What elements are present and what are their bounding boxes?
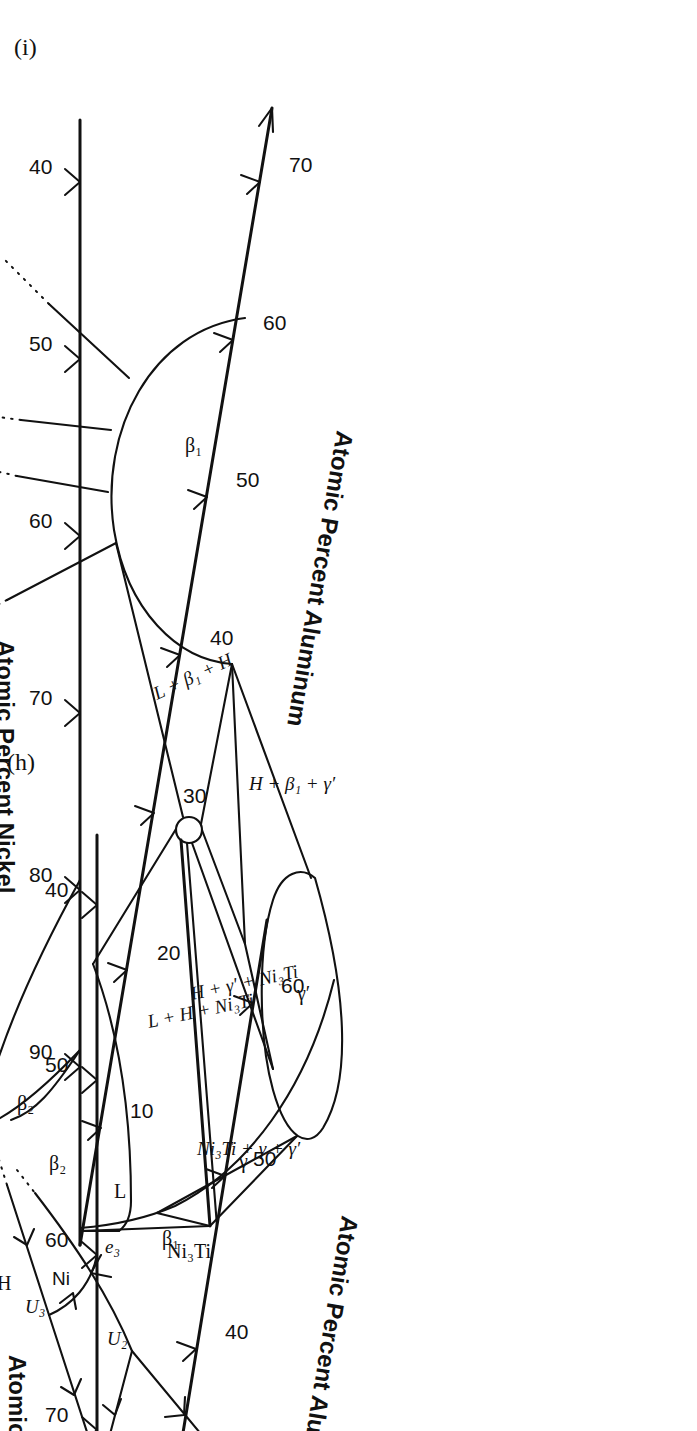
- ni-tick-70-h: 70: [45, 1403, 68, 1426]
- ni-tick-60: 60: [29, 509, 52, 532]
- line-U2-P3: [132, 1351, 235, 1431]
- al-tick-40-h: 40: [225, 1320, 248, 1343]
- panel-h: 60 50 40 30 20 10 40 50 60 70 80 90 Atom…: [0, 715, 697, 1431]
- al-tick-70: 70: [289, 153, 312, 176]
- al-axis-line-h: [97, 920, 267, 1431]
- point-label-U2: U₂: [107, 1328, 128, 1349]
- ni-axis-title-h: Atomic Percent Nickel: [4, 1355, 31, 1431]
- panel-h-svg: 60 50 40 30 20 10 40 50 60 70 80 90 Atom…: [0, 715, 697, 1431]
- al-tick-40: 40: [210, 626, 233, 649]
- al-ticks-h: [92, 996, 253, 1431]
- al-axis-title-h: Atomic Percent Aluminum: [289, 1214, 364, 1431]
- al-tick-60-h: 60: [281, 974, 304, 997]
- arrow-U2P3: [165, 1397, 185, 1417]
- figure-page: 70 60 50 40 30 20 10 40 50 60 70 80 90 A…: [0, 0, 697, 1431]
- ni-ticks-h: [82, 892, 97, 1431]
- field-H-h: H: [0, 1272, 11, 1294]
- panel-label-h: (h): [7, 749, 35, 775]
- field-beta1: β₁: [185, 434, 202, 457]
- point-label-U3: U₃: [25, 1296, 45, 1317]
- point-label-e3: e₃: [105, 1236, 120, 1257]
- label-L-b1-H: L + β₁ + H: [149, 648, 237, 704]
- al-tick-60: 60: [263, 311, 286, 334]
- field-beta2-h: β₂: [49, 1152, 66, 1175]
- line-U2-E1: [100, 1351, 132, 1431]
- ni-tick-40: 40: [29, 155, 52, 178]
- ni-tick-60-h: 60: [45, 1228, 68, 1251]
- al-tick-50-h: 50: [253, 1147, 276, 1170]
- b1-tie-4: [7, 543, 116, 600]
- field-beta1-h: β₁: [162, 1227, 179, 1250]
- ni-tick-40-h: 40: [45, 878, 68, 901]
- ni-tick-50: 50: [29, 332, 52, 355]
- beta1-boundary: [111, 318, 245, 664]
- b1-tie-3: [17, 476, 108, 492]
- b1-tie-1: [49, 304, 129, 378]
- ni-tick-70: 70: [29, 686, 52, 709]
- ni-tick-50-h: 50: [45, 1053, 68, 1076]
- line-e3-U3: [49, 1255, 97, 1315]
- panel-label-i: (i): [14, 34, 37, 60]
- al-axis-title: Atomic Percent Aluminum: [282, 429, 359, 728]
- al-tick-50: 50: [236, 468, 259, 491]
- b1-tie-2: [21, 420, 111, 430]
